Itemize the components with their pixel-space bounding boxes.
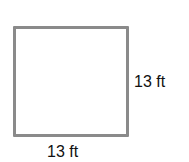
bottom-length-label: 13 ft — [47, 144, 78, 160]
square-shape — [13, 26, 129, 137]
side-length-label: 13 ft — [134, 74, 165, 90]
